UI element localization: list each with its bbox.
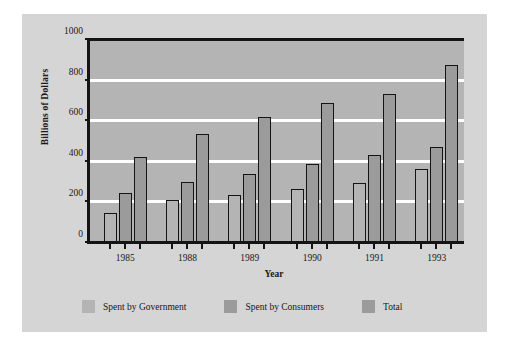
y-tick-mark bbox=[85, 79, 90, 81]
bar[interactable] bbox=[243, 174, 256, 244]
legend-label-government: Spent by Government bbox=[103, 302, 186, 312]
x-tick-mark bbox=[263, 244, 265, 249]
legend-label-consumers: Spent by Consumers bbox=[245, 302, 324, 312]
x-tick-mark bbox=[124, 244, 126, 249]
bar[interactable] bbox=[306, 164, 319, 244]
x-tick-label: 1991 bbox=[345, 253, 405, 263]
bar[interactable] bbox=[258, 117, 271, 244]
bar-group: 1989 bbox=[228, 41, 271, 244]
y-tick-label: 1000 bbox=[43, 26, 83, 36]
legend-item-total: Total bbox=[362, 300, 402, 313]
bar[interactable] bbox=[368, 155, 381, 244]
x-tick-mark bbox=[248, 244, 250, 249]
x-tick-label: 1989 bbox=[220, 253, 280, 263]
bar[interactable] bbox=[383, 94, 396, 244]
bar[interactable] bbox=[415, 169, 428, 244]
x-tick-mark bbox=[186, 244, 188, 249]
bar[interactable] bbox=[166, 200, 179, 244]
x-tick-mark bbox=[109, 244, 111, 249]
x-tick-mark bbox=[388, 244, 390, 249]
legend-item-government: Spent by Government bbox=[82, 300, 186, 313]
y-tick-label: 200 bbox=[43, 188, 83, 198]
y-tick-label: 600 bbox=[43, 107, 83, 117]
legend-label-total: Total bbox=[383, 302, 402, 312]
x-tick-label: 1988 bbox=[158, 253, 218, 263]
bar[interactable] bbox=[134, 157, 147, 244]
bar[interactable] bbox=[196, 134, 209, 244]
x-tick-mark bbox=[171, 244, 173, 249]
x-tick-label: 1985 bbox=[95, 253, 155, 263]
chart-legend: Spent by Government Spent by Consumers T… bbox=[82, 300, 482, 313]
x-tick-mark bbox=[311, 244, 313, 249]
plot-area: 0200400600800100019851988198919901991199… bbox=[87, 38, 464, 244]
legend-swatch-consumers bbox=[224, 300, 237, 313]
x-tick-label: 1990 bbox=[282, 253, 342, 263]
x-axis-line bbox=[87, 241, 464, 244]
x-axis-title: Year bbox=[87, 269, 461, 279]
legend-swatch-government bbox=[82, 300, 95, 313]
bar[interactable] bbox=[353, 183, 366, 244]
bar-group: 1990 bbox=[291, 41, 334, 244]
x-tick-mark bbox=[296, 244, 298, 249]
bar-group: 1985 bbox=[104, 41, 147, 244]
x-tick-mark bbox=[201, 244, 203, 249]
y-tick-label: 0 bbox=[43, 229, 83, 239]
bar[interactable] bbox=[181, 182, 194, 244]
y-tick-label: 400 bbox=[43, 148, 83, 158]
legend-item-consumers: Spent by Consumers bbox=[224, 300, 324, 313]
legend-swatch-total bbox=[362, 300, 375, 313]
bar-group: 1991 bbox=[353, 41, 396, 244]
x-tick-mark bbox=[373, 244, 375, 249]
bar[interactable] bbox=[104, 213, 117, 244]
y-tick-mark bbox=[85, 38, 90, 40]
x-tick-mark bbox=[358, 244, 360, 249]
y-tick-mark bbox=[85, 160, 90, 162]
bar[interactable] bbox=[228, 195, 241, 244]
bar[interactable] bbox=[430, 147, 443, 244]
x-tick-mark bbox=[435, 244, 437, 249]
x-tick-mark bbox=[326, 244, 328, 249]
bar-group: 1988 bbox=[166, 41, 209, 244]
chart-figure: Billions of Dollars 02004006008001000198… bbox=[22, 14, 487, 332]
x-tick-mark bbox=[233, 244, 235, 249]
x-tick-label: 1993 bbox=[407, 253, 467, 263]
y-tick-mark bbox=[85, 119, 90, 121]
y-tick-label: 800 bbox=[43, 67, 83, 77]
bar[interactable] bbox=[321, 103, 334, 244]
bar[interactable] bbox=[291, 189, 304, 244]
bar[interactable] bbox=[445, 65, 458, 244]
x-tick-mark bbox=[139, 244, 141, 249]
y-tick-mark bbox=[85, 200, 90, 202]
x-tick-mark bbox=[450, 244, 452, 249]
bar-group: 1993 bbox=[415, 41, 458, 244]
bar[interactable] bbox=[119, 193, 132, 244]
x-tick-mark bbox=[420, 244, 422, 249]
